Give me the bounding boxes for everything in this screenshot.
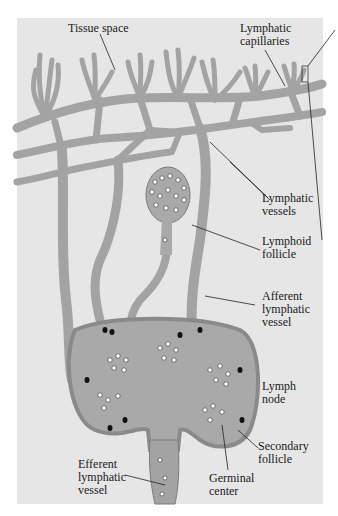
label-lymphatic-capillaries: Lymphatic capillaries [240, 22, 291, 48]
label-lymphatic-vessels: Lymphatic vessels [262, 192, 313, 218]
lymphatic-diagram: Tissue space Lymphatic capillaries Lymph… [0, 0, 338, 516]
label-lymph-node: Lymph node [262, 380, 296, 406]
label-tissue-space: Tissue space [68, 22, 129, 35]
label-lymphoid-follicle: Lymphoid follicle [262, 235, 311, 261]
label-secondary-follicle: Secondary follicle [258, 440, 309, 466]
label-germinal-center: Germinal center [209, 472, 254, 498]
lymphoid-follicle-shape [146, 167, 190, 255]
label-efferent-lymphatic-vessel: Efferent lymphatic vessel [78, 458, 126, 497]
label-afferent-lymphatic-vessel: Afferent lymphatic vessel [262, 290, 310, 329]
